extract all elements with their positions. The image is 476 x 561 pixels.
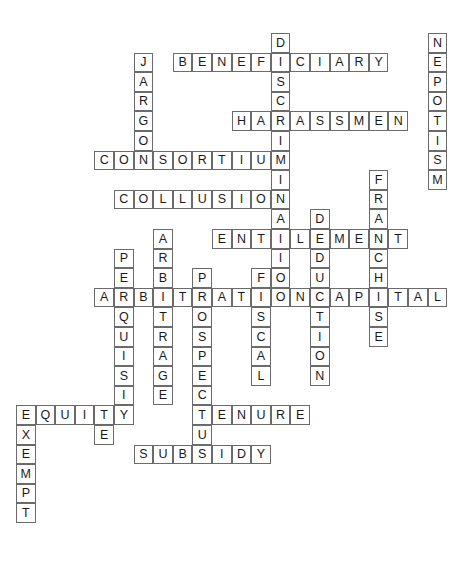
crossword-cell[interactable]: S bbox=[251, 307, 271, 327]
crossword-cell[interactable]: P bbox=[16, 484, 36, 504]
crossword-cell[interactable]: E bbox=[192, 53, 212, 73]
crossword-cell[interactable]: A bbox=[408, 288, 428, 308]
crossword-cell[interactable]: C bbox=[251, 327, 271, 347]
crossword-cell[interactable]: R bbox=[192, 151, 212, 171]
crossword-cell[interactable]: E bbox=[232, 53, 252, 73]
crossword-cell[interactable]: B bbox=[173, 445, 193, 465]
crossword-cell[interactable]: S bbox=[369, 307, 389, 327]
crossword-cell[interactable]: E bbox=[369, 111, 389, 131]
crossword-cell[interactable]: D bbox=[232, 445, 252, 465]
crossword-cell[interactable]: T bbox=[251, 229, 271, 249]
crossword-cell[interactable]: Y bbox=[369, 53, 389, 73]
crossword-cell[interactable]: E bbox=[16, 405, 36, 425]
crossword-cell[interactable]: I bbox=[75, 405, 95, 425]
crossword-cell[interactable]: E bbox=[192, 366, 212, 386]
crossword-cell[interactable]: T bbox=[94, 405, 114, 425]
crossword-cell[interactable]: I bbox=[271, 249, 291, 269]
crossword-cell[interactable]: R bbox=[271, 111, 291, 131]
crossword-cell[interactable]: I bbox=[114, 386, 134, 406]
crossword-cell[interactable]: U bbox=[192, 425, 212, 445]
crossword-cell[interactable]: R bbox=[153, 249, 173, 269]
crossword-cell[interactable]: S bbox=[271, 72, 291, 92]
crossword-cell[interactable]: I bbox=[251, 288, 271, 308]
crossword-cell[interactable]: U bbox=[114, 327, 134, 347]
crossword-cell[interactable]: C bbox=[369, 249, 389, 269]
crossword-cell[interactable]: R bbox=[114, 288, 134, 308]
crossword-cell[interactable]: M bbox=[330, 229, 350, 249]
crossword-cell[interactable]: A bbox=[271, 209, 291, 229]
crossword-cell[interactable]: S bbox=[212, 190, 232, 210]
crossword-cell[interactable]: A bbox=[290, 111, 310, 131]
crossword-cell[interactable]: A bbox=[369, 209, 389, 229]
crossword-cell[interactable]: C bbox=[192, 386, 212, 406]
crossword-cell[interactable]: O bbox=[251, 190, 271, 210]
crossword-cell[interactable]: L bbox=[153, 190, 173, 210]
crossword-cell[interactable]: O bbox=[271, 268, 291, 288]
crossword-cell[interactable]: E bbox=[428, 53, 448, 73]
crossword-cell[interactable]: C bbox=[310, 288, 330, 308]
crossword-cell[interactable]: Q bbox=[114, 307, 134, 327]
crossword-cell[interactable]: N bbox=[290, 288, 310, 308]
crossword-cell[interactable]: I bbox=[153, 288, 173, 308]
crossword-cell[interactable]: S bbox=[310, 111, 330, 131]
crossword-cell[interactable]: T bbox=[16, 503, 36, 523]
crossword-cell[interactable]: R bbox=[134, 92, 154, 112]
crossword-cell[interactable]: F bbox=[251, 53, 271, 73]
crossword-cell[interactable]: I bbox=[271, 170, 291, 190]
crossword-cell[interactable]: N bbox=[271, 190, 291, 210]
crossword-cell[interactable]: T bbox=[192, 405, 212, 425]
crossword-cell[interactable]: A bbox=[251, 111, 271, 131]
crossword-cell[interactable]: O bbox=[114, 151, 134, 171]
crossword-cell[interactable]: A bbox=[153, 347, 173, 367]
crossword-cell[interactable]: R bbox=[369, 190, 389, 210]
crossword-cell[interactable]: A bbox=[212, 288, 232, 308]
crossword-cell[interactable]: S bbox=[114, 366, 134, 386]
crossword-cell[interactable]: R bbox=[192, 288, 212, 308]
crossword-cell[interactable]: A bbox=[251, 347, 271, 367]
crossword-grid[interactable]: DNJBENEFICIARYEASPRCOGHARASSMENTOIICONSO… bbox=[0, 0, 476, 561]
crossword-cell[interactable]: U bbox=[251, 151, 271, 171]
crossword-cell[interactable]: U bbox=[55, 405, 75, 425]
crossword-cell[interactable]: A bbox=[94, 288, 114, 308]
crossword-cell[interactable]: N bbox=[369, 229, 389, 249]
crossword-cell[interactable]: D bbox=[310, 249, 330, 269]
crossword-cell[interactable]: O bbox=[173, 151, 193, 171]
crossword-cell[interactable]: O bbox=[134, 190, 154, 210]
crossword-cell[interactable]: R bbox=[271, 405, 291, 425]
crossword-cell[interactable]: J bbox=[134, 53, 154, 73]
crossword-cell[interactable]: B bbox=[134, 288, 154, 308]
crossword-cell[interactable]: R bbox=[153, 327, 173, 347]
crossword-cell[interactable]: O bbox=[310, 347, 330, 367]
crossword-cell[interactable]: G bbox=[134, 111, 154, 131]
crossword-cell[interactable]: M bbox=[16, 464, 36, 484]
crossword-cell[interactable]: I bbox=[310, 327, 330, 347]
crossword-cell[interactable]: Y bbox=[251, 445, 271, 465]
crossword-cell[interactable]: E bbox=[349, 229, 369, 249]
crossword-cell[interactable]: A bbox=[330, 288, 350, 308]
crossword-cell[interactable]: A bbox=[153, 229, 173, 249]
crossword-cell[interactable]: D bbox=[310, 209, 330, 229]
crossword-cell[interactable]: E bbox=[212, 229, 232, 249]
crossword-cell[interactable]: P bbox=[192, 268, 212, 288]
crossword-cell[interactable]: O bbox=[428, 92, 448, 112]
crossword-cell[interactable]: F bbox=[369, 170, 389, 190]
crossword-cell[interactable]: N bbox=[212, 53, 232, 73]
crossword-cell[interactable]: E bbox=[290, 405, 310, 425]
crossword-cell[interactable]: U bbox=[192, 190, 212, 210]
crossword-cell[interactable]: N bbox=[428, 33, 448, 53]
crossword-cell[interactable]: E bbox=[310, 229, 330, 249]
crossword-cell[interactable]: G bbox=[153, 366, 173, 386]
crossword-cell[interactable]: S bbox=[428, 151, 448, 171]
crossword-cell[interactable]: U bbox=[153, 445, 173, 465]
crossword-cell[interactable]: B bbox=[153, 268, 173, 288]
crossword-cell[interactable]: I bbox=[271, 229, 291, 249]
crossword-cell[interactable]: O bbox=[134, 131, 154, 151]
crossword-cell[interactable]: S bbox=[153, 151, 173, 171]
crossword-cell[interactable]: B bbox=[173, 53, 193, 73]
crossword-cell[interactable]: I bbox=[232, 190, 252, 210]
crossword-cell[interactable]: I bbox=[114, 347, 134, 367]
crossword-cell[interactable]: M bbox=[271, 151, 291, 171]
crossword-cell[interactable]: S bbox=[192, 327, 212, 347]
crossword-cell[interactable]: T bbox=[388, 229, 408, 249]
crossword-cell[interactable]: I bbox=[271, 131, 291, 151]
